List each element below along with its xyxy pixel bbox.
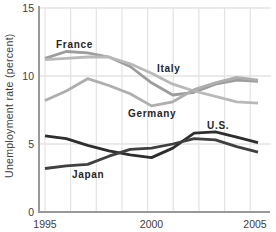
series-label-japan: Japan — [72, 169, 104, 180]
series-label-germany: Germany — [128, 108, 176, 119]
y-tick-label: 15 — [22, 2, 34, 14]
series-label-us: U.S. — [207, 120, 229, 131]
unemployment-chart: Unemployment rate (percent) FranceItalyG… — [0, 0, 276, 232]
y-tick-label: 5 — [28, 138, 34, 150]
y-tick-label: 10 — [22, 70, 34, 82]
chart-plot-area: FranceItalyGermanyU.S.Japan0510151995200… — [0, 0, 276, 232]
series-label-italy: Italy — [157, 63, 181, 74]
y-axis-title: Unemployment rate (percent) — [3, 33, 15, 178]
series-label-france: France — [56, 39, 93, 50]
y-tick-label: 0 — [28, 206, 34, 218]
x-tick-label: 1995 — [33, 218, 57, 230]
x-tick-label: 2005 — [243, 218, 267, 230]
x-tick-label: 2000 — [140, 218, 164, 230]
